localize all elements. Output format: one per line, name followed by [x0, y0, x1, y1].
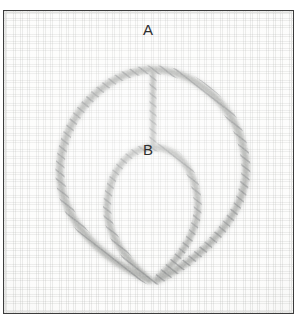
- label-b: B: [138, 142, 158, 157]
- thread-grain: [4, 11, 293, 313]
- label-a: A: [138, 22, 158, 37]
- stitch-diagram-canvas: [4, 11, 293, 313]
- photograph-frame: [3, 10, 294, 314]
- figure-root: A B: [0, 0, 305, 322]
